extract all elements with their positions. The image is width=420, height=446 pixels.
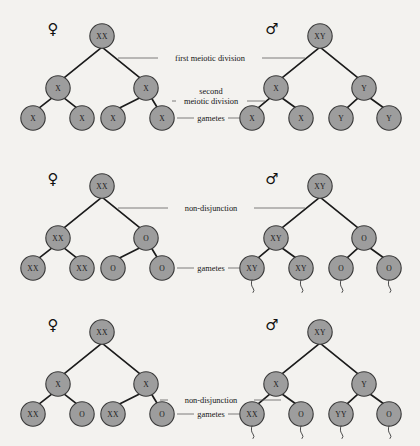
cell-genotype-label: XY (314, 182, 326, 191)
second-division-non-disjunction-male-mid-cell-2: Y (352, 372, 376, 396)
cell-genotype-label: O (79, 410, 85, 419)
first-division-non-disjunction-male-gamete-3: O (329, 256, 353, 293)
first-division-non-disjunction-female-gamete-3: O (101, 256, 125, 280)
cell-genotype-label: XY (314, 328, 326, 337)
tree-edge (38, 393, 53, 405)
normal-meiosis-female-mid-cell-1: X (46, 76, 70, 100)
sperm-tail (251, 426, 254, 439)
cell-genotype-label: XX (246, 410, 258, 419)
cell-genotype-label: Y (386, 114, 392, 123)
first-division-non-disjunction-female-root-cell: XX (90, 174, 114, 198)
cell-genotype-label: X (159, 114, 165, 123)
sperm-tail (388, 280, 391, 293)
first-division-non-disjunction-female-gamete-4: O (150, 256, 174, 280)
first-division-non-disjunction-female-sex-symbol: ♀ (48, 170, 59, 188)
cell-genotype-label: X (143, 380, 149, 389)
sperm-tail (340, 280, 343, 293)
first-division-non-disjunction-male-root-cell: XY (308, 174, 332, 198)
first-division-non-disjunction-male-gamete-2: XY (289, 256, 313, 293)
cell-genotype-label: XX (52, 234, 64, 243)
cell-genotype-label: XY (295, 264, 307, 273)
tree-edge (38, 97, 53, 109)
tree-edge (118, 393, 141, 405)
tree-edge (346, 393, 359, 405)
first-division-non-disjunction-male-mid-cell-1: XY (264, 226, 288, 250)
normal-meiosis-male-gamete-1: X (240, 106, 264, 130)
cell-genotype-label: Y (361, 84, 367, 93)
cell-genotype-label: O (143, 234, 149, 243)
cell-genotype-label: O (386, 264, 392, 273)
normal-meiosis-female-gamete-2: X (70, 106, 94, 130)
cell-genotype-label: YY (335, 410, 347, 419)
cell-genotype-label: O (110, 264, 116, 273)
second-division-non-disjunction-male-gamete-1: XX (240, 402, 264, 439)
tree-edge (257, 97, 271, 109)
first-division-non-disjunction-female-mid-cell-2: O (134, 226, 158, 250)
cell-genotype-label: XX (107, 410, 119, 419)
second-division-non-disjunction-male-gamete-3: YY (329, 402, 353, 439)
cell-genotype-label: XY (314, 32, 326, 41)
tree-edge (102, 47, 140, 78)
tree-edge (118, 97, 141, 109)
non-disjunction-label: non-disjunction (185, 396, 238, 405)
cell-genotype-label: X (30, 114, 36, 123)
tree-edge (64, 343, 102, 374)
cell-genotype-label: O (159, 264, 165, 273)
cell-genotype-label: X (143, 84, 149, 93)
tree-edge (118, 247, 141, 259)
tree-edge (282, 47, 320, 78)
sperm-tail (251, 280, 254, 293)
cell-genotype-label: XX (96, 182, 108, 191)
cell-genotype-label: X (55, 380, 61, 389)
first-division-non-disjunction-male-gamete-4: O (377, 256, 401, 293)
first-division-non-disjunction-male-mid-cell-2: O (352, 226, 376, 250)
tree-edge (320, 197, 358, 228)
tree-edge (64, 197, 102, 228)
first-division-non-disjunction-female-gamete-2: XX (70, 256, 94, 280)
tree-edge (346, 247, 359, 259)
normal-meiosis-male-gamete-2: X (289, 106, 313, 130)
normal-meiosis-female-root-cell: XX (90, 24, 114, 48)
meiosis-diagram-svg: XXXXXXXX♀XYXYXXYY♂first meiotic division… (0, 0, 420, 446)
normal-meiosis-female-gamete-3: X (101, 106, 125, 130)
tree-edge (257, 247, 271, 259)
sperm-tail (388, 426, 391, 439)
cell-genotype-label: O (386, 410, 392, 419)
first-division-non-disjunction-male-gamete-1: XY (240, 256, 264, 293)
cell-genotype-label: X (55, 84, 61, 93)
tree-edge (320, 343, 358, 374)
second-division-non-disjunction-male-mid-cell-1: X (264, 372, 288, 396)
cell-genotype-label: XX (96, 328, 108, 337)
second-division-non-disjunction-female-gamete-2: O (70, 402, 94, 426)
non-disjunction-label: non-disjunction (185, 204, 238, 213)
second-division-non-disjunction-female-mid-cell-2: X (134, 372, 158, 396)
cell-genotype-label: XY (270, 234, 282, 243)
tree-edge (38, 247, 53, 259)
second-division-non-disjunction-female-gamete-1: XX (21, 402, 45, 426)
tree-edge (257, 393, 271, 405)
cell-genotype-label: X (110, 114, 116, 123)
second-division-non-disjunction-female-gamete-3: XX (101, 402, 125, 426)
sperm-tail (340, 426, 343, 439)
second-division-non-disjunction-female-gamete-4: O (150, 402, 174, 426)
cell-genotype-label: XY (246, 264, 258, 273)
cell-genotype-label: XX (76, 264, 88, 273)
first-division-non-disjunction-female-gamete-1: XX (21, 256, 45, 280)
gametes-label: gametes (197, 410, 224, 419)
normal-meiosis-male-root-cell: XY (308, 24, 332, 48)
cell-genotype-label: X (79, 114, 85, 123)
cell-genotype-label: Y (338, 114, 344, 123)
second-meiotic-division-label-line2: meiotic division (184, 97, 239, 106)
cell-genotype-label: O (338, 264, 344, 273)
first-meiotic-division-label: first meiotic division (175, 54, 246, 63)
normal-meiosis-female-gamete-1: X (21, 106, 45, 130)
tree-edge (320, 47, 358, 78)
normal-meiosis-female-mid-cell-2: X (134, 76, 158, 100)
normal-meiosis-male-mid-cell-2: Y (352, 76, 376, 100)
first-division-non-disjunction-female-mid-cell-1: XX (46, 226, 70, 250)
gametes-label: gametes (197, 264, 224, 273)
normal-meiosis-panel: XXXXXXXX♀XYXYXXYY♂first meiotic division… (21, 20, 401, 130)
cell-genotype-label: XX (96, 32, 108, 41)
cell-genotype-label: O (361, 234, 367, 243)
normal-meiosis-female-sex-symbol: ♀ (48, 20, 59, 38)
